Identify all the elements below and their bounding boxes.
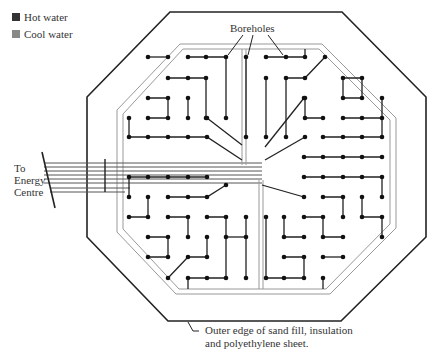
borehole-dot bbox=[341, 135, 346, 140]
borehole-dot bbox=[205, 175, 210, 180]
boreholes-label: Boreholes bbox=[230, 22, 275, 34]
borehole-dot bbox=[244, 135, 249, 140]
borehole-field-diagram bbox=[0, 0, 445, 363]
energy-centre-label-3: Centre bbox=[14, 186, 43, 198]
borehole-dot bbox=[284, 135, 289, 140]
borehole-dot bbox=[341, 155, 346, 160]
borehole-dot bbox=[380, 135, 385, 140]
cool-water-swatch bbox=[12, 30, 20, 38]
borehole-dot bbox=[303, 135, 308, 140]
borehole-dots bbox=[127, 55, 385, 281]
borehole-dot bbox=[244, 235, 249, 240]
borehole-dot bbox=[146, 55, 151, 60]
borehole-network bbox=[129, 49, 382, 289]
borehole-dot bbox=[321, 195, 326, 200]
borehole-dot bbox=[186, 255, 191, 260]
borehole-dot bbox=[244, 215, 249, 220]
borehole-dot bbox=[186, 235, 191, 240]
borehole-dot bbox=[321, 235, 326, 240]
borehole-dot bbox=[224, 116, 229, 121]
borehole-dot bbox=[321, 116, 326, 121]
borehole-dot bbox=[127, 116, 132, 121]
borehole-dot bbox=[282, 215, 287, 220]
borehole-dot bbox=[186, 55, 191, 60]
borehole-dot bbox=[380, 116, 385, 121]
borehole-dot bbox=[127, 175, 132, 180]
borehole-dot bbox=[302, 96, 307, 101]
borehole-dot bbox=[205, 195, 210, 200]
borehole-dot bbox=[303, 76, 308, 81]
borehole-dot bbox=[224, 215, 229, 220]
borehole-dot bbox=[224, 235, 229, 240]
borehole-dot bbox=[146, 175, 151, 180]
borehole-dot bbox=[341, 175, 346, 180]
borehole-dot bbox=[205, 255, 210, 260]
borehole-dot bbox=[166, 116, 171, 121]
borehole-dot bbox=[360, 116, 365, 121]
borehole-dot bbox=[186, 116, 191, 121]
borehole-dot bbox=[186, 96, 191, 101]
borehole-dot bbox=[186, 175, 191, 180]
borehole-dot bbox=[264, 135, 269, 140]
borehole-dot bbox=[302, 175, 307, 180]
borehole-dot bbox=[282, 235, 287, 240]
borehole-dot bbox=[146, 135, 151, 140]
borehole-dot bbox=[264, 55, 269, 60]
borehole-dot bbox=[284, 76, 289, 81]
borehole-dot bbox=[127, 195, 132, 200]
borehole-dot bbox=[282, 255, 287, 260]
borehole-dot bbox=[166, 55, 171, 60]
borehole-dot bbox=[186, 215, 191, 220]
energy-centre-label-1: To bbox=[14, 162, 25, 174]
borehole-dot bbox=[323, 55, 328, 60]
borehole-dot bbox=[204, 55, 209, 60]
borehole-dot bbox=[380, 155, 385, 160]
borehole-dot bbox=[264, 215, 269, 220]
borehole-dot bbox=[224, 276, 229, 281]
borehole-dot bbox=[186, 135, 191, 140]
borehole-dot bbox=[360, 155, 365, 160]
borehole-dot bbox=[380, 195, 385, 200]
borehole-dot bbox=[341, 116, 346, 121]
borehole-dot bbox=[302, 276, 307, 281]
borehole-dot bbox=[341, 76, 346, 81]
borehole-dot bbox=[224, 183, 229, 188]
central-manifold bbox=[242, 49, 263, 289]
borehole-dot bbox=[341, 255, 346, 260]
borehole-dot bbox=[380, 215, 385, 220]
borehole-dot bbox=[205, 276, 210, 281]
borehole-dot bbox=[341, 96, 346, 101]
hot-water-swatch bbox=[12, 13, 20, 21]
borehole-dot bbox=[166, 135, 171, 140]
borehole-dot bbox=[360, 96, 365, 101]
borehole-dot bbox=[321, 175, 326, 180]
borehole-dot bbox=[205, 215, 210, 220]
borehole-dot bbox=[380, 235, 385, 240]
borehole-leaders bbox=[228, 35, 283, 55]
borehole-dot bbox=[166, 235, 171, 240]
borehole-dot bbox=[321, 255, 326, 260]
borehole-dot bbox=[146, 255, 151, 260]
borehole-dot bbox=[321, 276, 326, 281]
legend: Hot water Cool water bbox=[12, 8, 73, 42]
borehole-dot bbox=[360, 215, 365, 220]
borehole-dot bbox=[244, 276, 249, 281]
energy-centre-label-2: Energy bbox=[14, 174, 46, 186]
legend-label: Hot water bbox=[24, 11, 68, 23]
borehole-dot bbox=[127, 135, 132, 140]
borehole-dot bbox=[380, 96, 385, 101]
borehole-dot bbox=[303, 55, 308, 60]
outer-edge-label-2: and polyethylene sheet. bbox=[205, 337, 309, 349]
borehole-dot bbox=[205, 116, 210, 121]
borehole-dot bbox=[205, 135, 210, 140]
borehole-dot bbox=[360, 76, 365, 81]
borehole-dot bbox=[186, 195, 191, 200]
borehole-dot bbox=[302, 155, 307, 160]
borehole-dot bbox=[244, 55, 249, 60]
borehole-dot bbox=[166, 195, 171, 200]
borehole-dot bbox=[146, 195, 151, 200]
borehole-dot bbox=[204, 76, 209, 81]
borehole-dot bbox=[302, 235, 307, 240]
borehole-dot bbox=[146, 215, 151, 220]
outer-edge-leader bbox=[188, 322, 199, 331]
